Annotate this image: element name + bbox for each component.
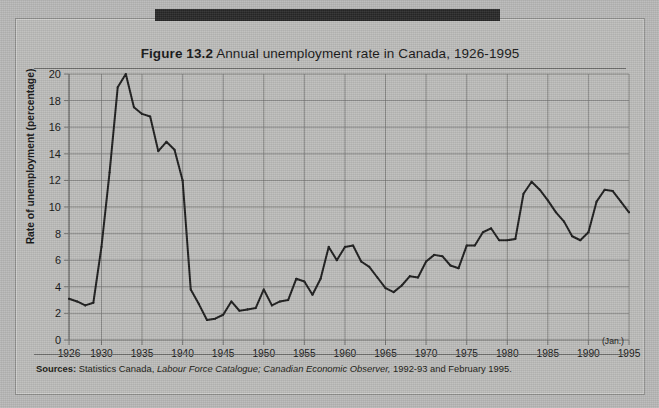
data-point (109, 171, 111, 173)
data-point (206, 319, 208, 321)
data-point (458, 267, 460, 269)
data-point (287, 299, 289, 301)
unemployment-rate-line (69, 74, 629, 320)
figure-page: Figure 13.2 Annual unemployment rate in … (0, 0, 659, 408)
data-point (173, 149, 175, 151)
sources-label: Sources: (36, 363, 76, 374)
data-point (587, 231, 589, 233)
data-point (303, 280, 305, 282)
data-point (595, 201, 597, 203)
data-point (393, 291, 395, 293)
data-point (409, 275, 411, 277)
data-point (604, 189, 606, 191)
y-tick-label: 12 (49, 174, 61, 186)
data-point (449, 264, 451, 266)
data-point (279, 300, 281, 302)
data-point (92, 302, 94, 304)
data-point (506, 239, 508, 241)
data-point (514, 238, 516, 240)
sources-line: Sources: Statistics Canada, Labour Force… (36, 363, 636, 374)
figure-box: Figure 13.2 Annual unemployment rate in … (15, 18, 645, 395)
data-point (579, 239, 581, 241)
data-point (620, 201, 622, 203)
data-point (76, 300, 78, 302)
data-point (571, 235, 573, 237)
data-point (466, 245, 468, 247)
y-tick-label: 18 (49, 95, 61, 107)
data-point (141, 113, 143, 115)
data-point (255, 307, 257, 309)
data-point (539, 189, 541, 191)
data-point (133, 106, 135, 108)
data-point (368, 266, 370, 268)
sources-italic-1: Labour Force Catalogue; (157, 363, 261, 374)
data-point (522, 193, 524, 195)
data-point (563, 221, 565, 223)
chart-svg: 0246810121416182019261930193519401945195… (16, 19, 644, 394)
data-point (547, 199, 549, 201)
data-point (149, 116, 151, 118)
y-tick-label: 2 (55, 307, 61, 319)
data-point (360, 260, 362, 262)
data-point (182, 179, 184, 181)
y-tick-label: 14 (49, 148, 61, 160)
data-point (628, 211, 630, 213)
data-point (311, 294, 313, 296)
data-point (490, 227, 492, 229)
y-tick-label: 16 (49, 121, 61, 133)
data-point (117, 86, 119, 88)
y-tick-label: 10 (49, 201, 61, 213)
sources-text-1: Statistics Canada, (76, 363, 157, 374)
data-point (320, 278, 322, 280)
data-point (433, 254, 435, 256)
data-point (531, 181, 533, 183)
data-point (165, 141, 167, 143)
plot-area: Rate of unemployment (percentage) 024681… (16, 19, 644, 394)
data-point (190, 288, 192, 290)
data-point (247, 308, 249, 310)
data-point (263, 288, 265, 290)
data-point (352, 245, 354, 247)
data-point (295, 278, 297, 280)
data-point (425, 260, 427, 262)
sources-text-2: 1992-93 and February 1995. (390, 363, 511, 374)
data-point (230, 300, 232, 302)
data-point (125, 73, 127, 75)
data-point (417, 276, 419, 278)
data-point (612, 190, 614, 192)
data-point (157, 150, 159, 152)
data-point (474, 245, 476, 247)
x-axis-note: (Jan.) (602, 336, 624, 346)
data-point (100, 246, 102, 248)
y-tick-label: 20 (49, 68, 61, 80)
data-point (336, 259, 338, 261)
data-point (401, 284, 403, 286)
data-point (238, 310, 240, 312)
data-point (441, 255, 443, 257)
data-point (214, 318, 216, 320)
data-point (555, 211, 557, 213)
y-tick-label: 6 (55, 254, 61, 266)
data-point (222, 314, 224, 316)
y-tick-label: 8 (55, 228, 61, 240)
data-point (198, 303, 200, 305)
sources-divider (34, 354, 626, 355)
data-point (271, 304, 273, 306)
data-point (344, 246, 346, 248)
data-point (84, 304, 86, 306)
data-point (328, 246, 330, 248)
decorative-black-bar (155, 9, 500, 21)
sources-italic-2: Canadian Economic Observer, (261, 363, 391, 374)
data-point (482, 231, 484, 233)
data-point (68, 298, 70, 300)
data-point (498, 239, 500, 241)
y-tick-label: 4 (55, 281, 61, 293)
data-point (384, 287, 386, 289)
data-point (376, 276, 378, 278)
y-tick-label: 0 (55, 334, 61, 346)
